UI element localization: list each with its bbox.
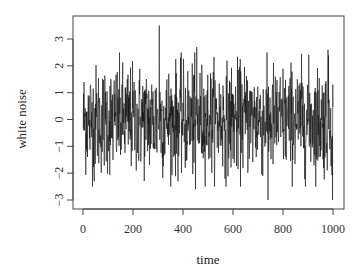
white-noise-chart: 02004006008001000 −3−2−10123 time white … [0, 0, 361, 277]
x-tick-label: 1000 [321, 222, 345, 236]
x-tick-label: 800 [274, 222, 292, 236]
y-axis: −3−2−10123 [52, 36, 73, 206]
x-axis: 02004006008001000 [80, 209, 345, 236]
x-axis-title: time [196, 252, 219, 267]
y-tick-label: −1 [52, 140, 66, 153]
y-tick-label: 2 [52, 63, 66, 69]
x-tick-label: 600 [224, 222, 242, 236]
x-tick-label: 200 [124, 222, 142, 236]
x-tick-label: 0 [80, 222, 86, 236]
y-tick-label: −3 [52, 194, 66, 207]
y-tick-label: 1 [52, 90, 66, 96]
y-tick-label: 0 [52, 117, 66, 123]
y-axis-title: white noise [14, 89, 29, 149]
y-tick-label: 3 [52, 36, 66, 42]
white-noise-series [83, 26, 333, 200]
x-tick-label: 400 [174, 222, 192, 236]
y-tick-label: −2 [52, 167, 66, 180]
